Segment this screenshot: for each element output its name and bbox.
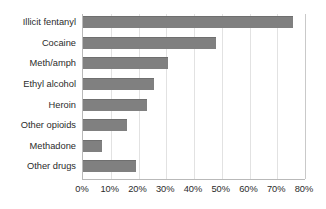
bar [83,160,136,172]
bar [83,16,293,28]
gridline [305,14,306,179]
category-label: Other drugs [0,160,76,172]
gridline [222,14,223,179]
bar [83,99,147,111]
gridline [250,14,251,179]
category-label: Illicit fentanyl [0,16,76,28]
value-tick-label: 80% [284,182,324,196]
category-label: Methadone [0,140,76,152]
category-label: Meth/amph [0,57,76,69]
bar [83,140,102,152]
category-label: Ethyl alcohol [0,78,76,90]
plot-area [82,14,305,180]
value-axis: 0%10%20%30%40%50%60%70%80% [82,182,304,196]
category-label: Other opioids [0,119,76,131]
bar [83,37,216,49]
bar [83,57,168,69]
category-label: Cocaine [0,37,76,49]
bar [83,119,127,131]
category-axis: Illicit fentanylCocaineMeth/amphEthyl al… [0,14,76,180]
bar [83,78,154,90]
bar-chart: Illicit fentanylCocaineMeth/amphEthyl al… [0,0,326,209]
gridline [277,14,278,179]
category-label: Heroin [0,99,76,111]
